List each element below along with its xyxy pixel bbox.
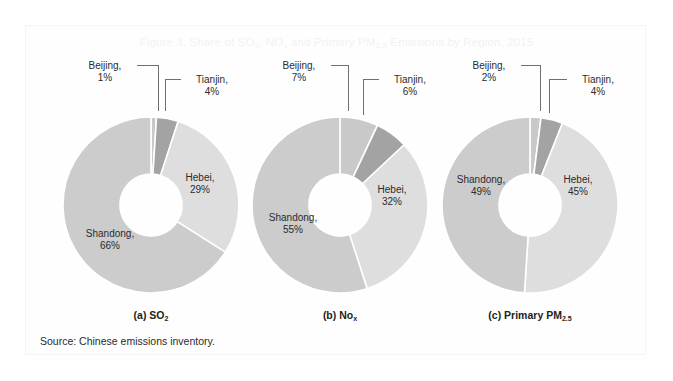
slice-label-hebei-name-nox: Hebei, (363, 184, 421, 196)
slice-label-beijing-value-nox: 7% (266, 72, 332, 84)
slice-label-shandong-name-pm25: Shandong, (439, 174, 523, 186)
slice-label-hebei-nox: Hebei, 32% (363, 184, 421, 208)
slice-label-shandong-value-nox: 55% (251, 224, 335, 236)
panel-caption-pm25: (c) Primary PM2.5 (425, 309, 635, 321)
panel-caption-sub-pm25: 2.5 (562, 315, 572, 322)
slice-label-hebei-so2: Hebei, 29% (171, 172, 229, 196)
leader-line-beijing-v-so2 (158, 65, 159, 111)
leader-line-beijing-h-nox (331, 65, 349, 66)
slice-label-beijing-pm25: Beijing, 2% (456, 60, 522, 84)
slice-label-hebei-value-so2: 29% (171, 184, 229, 196)
figure-title-seg1: Figure 3. Share of SO (140, 36, 255, 48)
leader-line-beijing-h-pm25 (521, 65, 541, 66)
donut-svg-so2 (46, 110, 256, 300)
slice-label-tianjin-value-pm25: 4% (567, 86, 629, 98)
leader-line-tianjin-h-nox (363, 79, 379, 80)
donut-chart-pm25 (425, 110, 635, 300)
figure-title-sub-nox: x (283, 41, 287, 50)
slice-label-beijing-value-so2: 1% (72, 72, 138, 84)
slice-label-shandong-so2: Shandong, 66% (68, 228, 152, 252)
figure-title-seg3: and Primary PM (288, 36, 376, 48)
slice-label-tianjin-name-pm25: Tianjin, (567, 74, 629, 86)
panel-caption-main-nox: (b) No (323, 309, 353, 321)
figure-title-sub-so2: 2 (255, 41, 260, 50)
slice-label-shandong-nox: Shandong, 55% (251, 212, 335, 236)
figure-title-seg2: , NO (259, 36, 283, 48)
chart-panel-pm25: Beijing, 2% Tianjin, 4% Hebei, 45% Shand… (425, 60, 635, 325)
panel-caption-main-pm25: (c) Primary PM (488, 309, 562, 321)
source-note: Source: Chinese emissions inventory. (40, 335, 215, 347)
slice-label-shandong-name-nox: Shandong, (251, 212, 335, 224)
donut-slices-pm25 (442, 117, 618, 293)
leader-line-tianjin-h-pm25 (549, 79, 567, 80)
leader-line-beijing-h-so2 (137, 65, 159, 66)
leader-line-tianjin-v-nox (363, 79, 364, 115)
chart-panel-so2: Beijing, 1% Tianjin, 4% Hebei, 29% Shand… (46, 60, 256, 325)
leader-line-beijing-v-nox (348, 65, 349, 111)
slice-label-beijing-nox: Beijing, 7% (266, 60, 332, 84)
leader-line-tianjin-v-so2 (165, 79, 166, 111)
slice-label-beijing-name-so2: Beijing, (72, 60, 138, 72)
panel-caption-so2: (a) SO2 (46, 309, 256, 321)
slice-label-beijing-name-pm25: Beijing, (456, 60, 522, 72)
slice-label-beijing-so2: Beijing, 1% (72, 60, 138, 84)
leader-line-beijing-v-pm25 (540, 65, 541, 111)
panel-caption-sub-so2: 2 (165, 315, 169, 322)
leader-line-tianjin-h-so2 (165, 79, 181, 80)
slice-label-hebei-pm25: Hebei, 45% (549, 174, 607, 198)
slice-label-tianjin-pm25: Tianjin, 4% (567, 74, 629, 98)
slice-label-beijing-value-pm25: 2% (456, 72, 522, 84)
slice-label-shandong-value-pm25: 49% (439, 186, 523, 198)
figure-title-sub-pm25: 2.5 (375, 41, 387, 50)
slice-label-beijing-name-nox: Beijing, (266, 60, 332, 72)
leader-line-tianjin-v-pm25 (549, 79, 550, 113)
donut-chart-so2 (46, 110, 256, 300)
donut-slices-so2 (63, 117, 239, 293)
chart-panel-nox: Beijing, 7% Tianjin, 6% Hebei, 32% Shand… (235, 60, 445, 325)
slice-label-hebei-value-nox: 32% (363, 196, 421, 208)
slice-label-hebei-value-pm25: 45% (549, 186, 607, 198)
slice-label-hebei-name-pm25: Hebei, (549, 174, 607, 186)
slice-label-shandong-value-so2: 66% (68, 240, 152, 252)
figure-title-seg4: Emissions by Region, 2015 (387, 36, 533, 48)
panel-caption-sub-nox: x (353, 315, 357, 322)
panel-caption-nox: (b) Nox (235, 309, 445, 321)
donut-svg-pm25 (425, 110, 635, 300)
slice-label-shandong-pm25: Shandong, 49% (439, 174, 523, 198)
donut-slice-shandong-c (442, 117, 530, 293)
slice-label-shandong-name-so2: Shandong, (68, 228, 152, 240)
slice-label-hebei-name-so2: Hebei, (171, 172, 229, 184)
panel-caption-main-so2: (a) SO (134, 309, 165, 321)
figure-title: Figure 3. Share of SO2, NOx and Primary … (0, 36, 673, 48)
